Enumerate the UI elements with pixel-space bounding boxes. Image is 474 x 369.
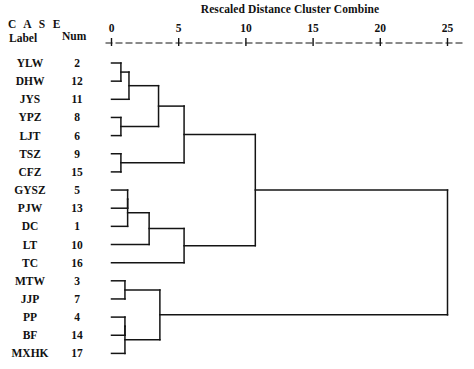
x-axis — [106, 38, 464, 46]
dendrogram-figure: Rescaled Distance Cluster Combine C A S … — [0, 0, 474, 369]
dendrogram-tree — [0, 0, 474, 369]
dendrogram-links — [112, 63, 448, 353]
